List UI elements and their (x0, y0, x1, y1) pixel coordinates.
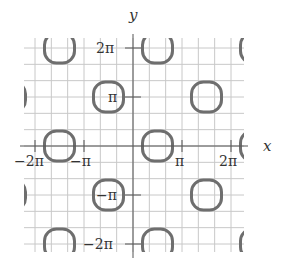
level-curve (0, 82, 26, 112)
x-tick-label-2pi: 2π (219, 153, 237, 169)
x-axis-label: x (263, 137, 272, 155)
x-tick-label-negpi: −π (70, 153, 91, 169)
y-tick-label-pi: π (108, 89, 117, 105)
y-tick-label-negpi: −π (96, 187, 117, 203)
level-curve (241, 229, 271, 259)
x-tick-label-pi: π (175, 153, 184, 169)
x-tick-label-neg2pi: −2π (14, 153, 44, 169)
level-curve (241, 33, 271, 63)
y-axis-label: y (128, 6, 138, 24)
plot: y x −2π −π π 2π 2π π −π −2π (0, 0, 293, 264)
grid (24, 38, 244, 252)
y-tick-label-2pi: 2π (96, 40, 114, 56)
level-curve (0, 180, 26, 210)
y-tick-label-neg2pi: −2π (83, 236, 113, 252)
